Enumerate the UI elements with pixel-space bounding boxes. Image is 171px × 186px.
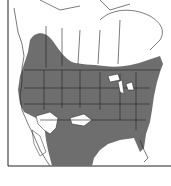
range-map bbox=[0, 0, 171, 186]
